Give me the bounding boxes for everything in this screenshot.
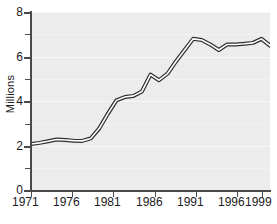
y-tick-1 (25, 168, 31, 169)
x-tick-label-1999: 1999 (245, 196, 272, 209)
y-tick-6 (24, 57, 31, 59)
x-tick-label-1981: 1981 (94, 196, 121, 209)
x-tick-label-1986: 1986 (136, 196, 163, 209)
y-tick-4 (24, 101, 31, 103)
x-tick-label-1996: 1996 (218, 196, 245, 209)
plot-area (31, 12, 270, 191)
x-tick-label-1976: 1976 (53, 196, 80, 209)
y-axis-title: Millions (4, 62, 16, 126)
x-tick-label-1971: 1971 (12, 196, 39, 209)
y-tick-2 (24, 146, 31, 148)
x-axis-line (30, 190, 271, 192)
y-tick-label-8: 8 (1, 6, 23, 18)
y-tick-0 (24, 190, 31, 192)
y-tick-3 (25, 124, 31, 125)
x-tick-label-1991: 1991 (177, 196, 204, 209)
y-tick-7 (25, 34, 31, 35)
y-tick-label-2: 2 (1, 140, 23, 152)
y-tick-5 (25, 79, 31, 80)
y-tick-8 (24, 12, 31, 14)
chart-figure: 8 6 4 2 0 Millions 1971 1976 1981 1986 1… (0, 0, 277, 224)
data-series-line (31, 12, 270, 191)
